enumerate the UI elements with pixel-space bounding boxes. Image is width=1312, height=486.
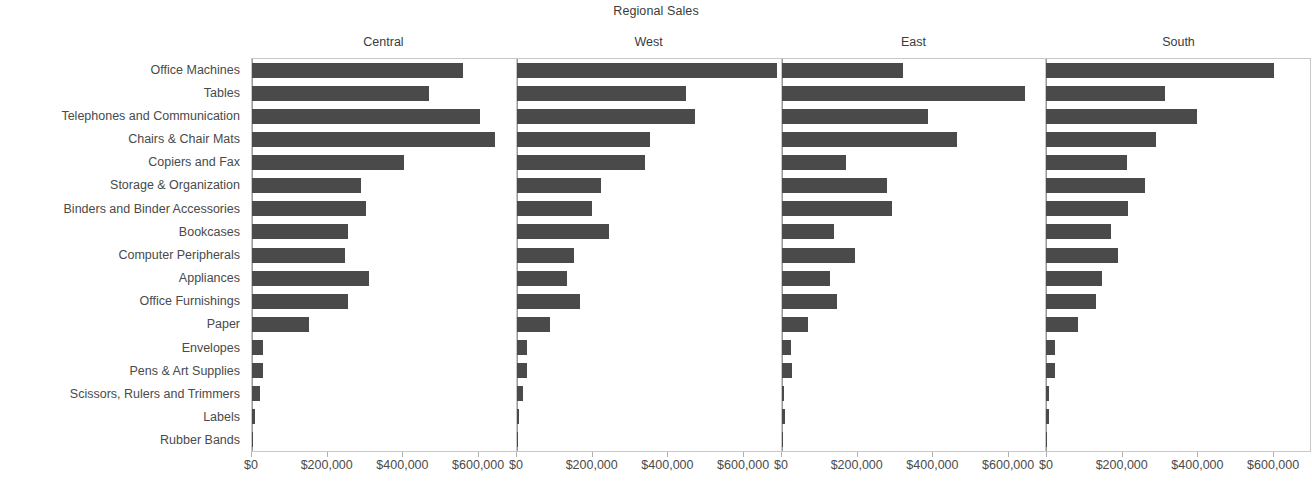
panel-rows	[782, 59, 1046, 451]
bar[interactable]	[517, 363, 527, 378]
bar[interactable]	[782, 432, 783, 447]
bar[interactable]	[252, 317, 309, 332]
bar[interactable]	[517, 317, 550, 332]
bar-row	[517, 405, 781, 428]
bar[interactable]	[252, 271, 369, 286]
bar[interactable]	[517, 432, 518, 447]
bar-row	[1046, 197, 1310, 220]
bar-row	[1046, 244, 1310, 267]
axis-panel-central: $0$200,000$400,000$600,000	[251, 452, 516, 486]
bar[interactable]	[252, 155, 404, 170]
bar-row	[782, 128, 1046, 151]
bar-row	[782, 267, 1046, 290]
bar[interactable]	[1046, 63, 1274, 78]
bar[interactable]	[782, 409, 785, 424]
bar[interactable]	[252, 201, 366, 216]
bar[interactable]	[1046, 178, 1145, 193]
bar[interactable]	[1046, 409, 1049, 424]
axis-panel-west: $0$200,000$400,000$600,000	[516, 452, 781, 486]
bar[interactable]	[517, 248, 575, 263]
bar-row	[517, 290, 781, 313]
bar-row	[252, 174, 516, 197]
axis-tick	[1122, 452, 1123, 457]
bar[interactable]	[517, 201, 592, 216]
bar[interactable]	[252, 63, 463, 78]
bar[interactable]	[252, 340, 263, 355]
bar[interactable]	[782, 86, 1025, 101]
bar[interactable]	[252, 224, 348, 239]
axis-tick-label: $200,000	[1096, 458, 1148, 472]
category-label: Binders and Binder Accessories	[0, 197, 246, 220]
bar[interactable]	[782, 201, 892, 216]
axis-tick	[1046, 452, 1047, 457]
bar-row	[252, 336, 516, 359]
bar[interactable]	[252, 363, 263, 378]
bar[interactable]	[1046, 363, 1055, 378]
bar[interactable]	[1046, 271, 1102, 286]
axis-tick	[327, 452, 328, 457]
bar[interactable]	[782, 340, 792, 355]
bar[interactable]	[782, 294, 837, 309]
bar[interactable]	[517, 86, 687, 101]
bar[interactable]	[782, 317, 808, 332]
bar[interactable]	[252, 86, 429, 101]
bar[interactable]	[782, 109, 928, 124]
bar[interactable]	[1046, 386, 1049, 401]
bar[interactable]	[517, 340, 528, 355]
bar[interactable]	[517, 224, 610, 239]
bar[interactable]	[1046, 294, 1095, 309]
bar[interactable]	[782, 248, 856, 263]
bar[interactable]	[517, 294, 580, 309]
bar[interactable]	[252, 409, 255, 424]
bar-row	[252, 267, 516, 290]
bar[interactable]	[517, 155, 645, 170]
bar[interactable]	[517, 178, 601, 193]
bar[interactable]	[1046, 224, 1111, 239]
bar[interactable]	[252, 109, 480, 124]
bar[interactable]	[782, 386, 785, 401]
bar-row	[517, 174, 781, 197]
bar[interactable]	[782, 224, 835, 239]
bar[interactable]	[252, 132, 495, 147]
bar[interactable]	[252, 386, 260, 401]
bar[interactable]	[782, 178, 888, 193]
bar[interactable]	[1046, 109, 1197, 124]
bar[interactable]	[1046, 248, 1118, 263]
bar-row	[782, 382, 1046, 405]
bar[interactable]	[782, 271, 831, 286]
axis-tick	[667, 452, 668, 457]
bar[interactable]	[1046, 201, 1128, 216]
bar-row	[252, 105, 516, 128]
bar[interactable]	[252, 294, 348, 309]
bar-row	[782, 428, 1046, 451]
plot-area	[251, 58, 1311, 452]
bar[interactable]	[782, 363, 793, 378]
bar[interactable]	[1046, 317, 1078, 332]
bar[interactable]	[517, 63, 777, 78]
axis-tick	[781, 452, 782, 457]
bar[interactable]	[252, 432, 253, 447]
bar-row	[252, 197, 516, 220]
bar[interactable]	[1046, 432, 1047, 447]
bar[interactable]	[1046, 132, 1156, 147]
bar[interactable]	[782, 155, 847, 170]
bar-row	[782, 405, 1046, 428]
category-label: Labels	[0, 406, 246, 429]
bar[interactable]	[517, 386, 523, 401]
bar[interactable]	[252, 178, 361, 193]
bar[interactable]	[517, 109, 695, 124]
bar[interactable]	[782, 63, 904, 78]
axis-tick	[1273, 452, 1274, 457]
bar-row	[252, 59, 516, 82]
bar[interactable]	[252, 248, 345, 263]
bar[interactable]	[517, 409, 519, 424]
bar[interactable]	[1046, 155, 1127, 170]
bar[interactable]	[517, 271, 567, 286]
axis-tick-label: $0	[1039, 458, 1053, 472]
bar[interactable]	[782, 132, 958, 147]
bar[interactable]	[1046, 86, 1165, 101]
bar[interactable]	[517, 132, 650, 147]
bar[interactable]	[1046, 340, 1054, 355]
category-label: Rubber Bands	[0, 429, 246, 452]
bar-row	[782, 313, 1046, 336]
